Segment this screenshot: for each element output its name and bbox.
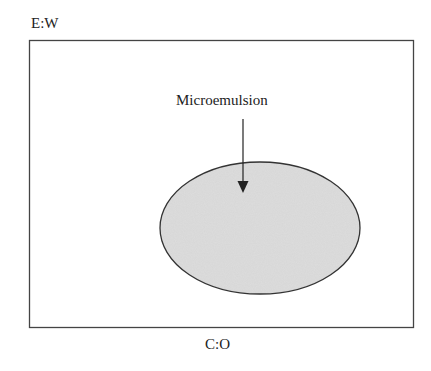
microemulsion-label: Microemulsion — [176, 93, 268, 108]
top-axis-label: E:W — [31, 16, 59, 31]
region-texture — [161, 163, 359, 293]
phase-diagram — [0, 0, 431, 371]
bottom-axis-label: C:O — [205, 337, 230, 352]
